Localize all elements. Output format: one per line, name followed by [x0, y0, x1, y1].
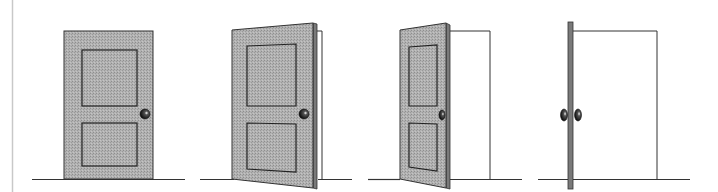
door-edge: [446, 23, 450, 189]
door-half-open: [368, 23, 522, 189]
door-opening-sequence: [0, 0, 718, 192]
door-fully-open: [538, 22, 690, 189]
door-frame: [450, 31, 490, 179]
door-slab: [64, 31, 153, 179]
doorknob-left-icon: [561, 109, 568, 121]
doorknob-icon: [299, 109, 309, 119]
door-edge: [568, 22, 573, 189]
door-frame: [573, 31, 657, 179]
door-edge: [313, 23, 317, 189]
doorknob-icon: [140, 109, 150, 119]
door-frame: [317, 31, 322, 179]
doorknob-icon: [439, 110, 445, 120]
door-slightly-open: [200, 23, 352, 189]
door-closed: [32, 31, 185, 180]
doorknob-right-icon: [575, 109, 582, 121]
